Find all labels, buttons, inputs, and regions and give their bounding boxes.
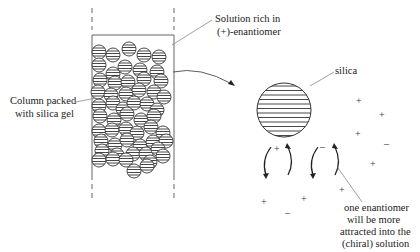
plus-sign: + [274, 143, 280, 154]
note-line-1: one enantiomer [344, 202, 410, 213]
silica-gel-beads [91, 42, 173, 178]
silica-bead [120, 133, 134, 147]
silica-bead [118, 60, 132, 74]
silica-bead [91, 85, 105, 99]
column-leader-line [76, 98, 96, 102]
silica-bead [92, 153, 106, 167]
silica-label: silica [335, 65, 357, 76]
plus-sign: + [356, 95, 362, 106]
silica-bead [92, 58, 106, 72]
silica-bead [132, 83, 146, 97]
solution-label-1: Solution rich in [215, 13, 281, 24]
silica-bead [137, 48, 151, 62]
solution-label-2: (+)-enantiomer [217, 26, 281, 38]
chromatography-diagram: Solution rich in (+)-enantiomer Column p… [0, 0, 420, 252]
note-line-3: attracted into the [340, 226, 411, 237]
silica-bead [140, 159, 154, 173]
note-line-2: will be more [347, 214, 400, 225]
plus-sign: + [261, 196, 267, 207]
silica-bead [152, 50, 166, 64]
solution-leader-line [172, 20, 212, 45]
plus-sign: + [379, 109, 385, 120]
silica-leader-line [310, 72, 334, 86]
plus-sign: + [339, 184, 345, 195]
plus-sign: + [370, 158, 376, 169]
silica-bead [92, 45, 106, 59]
silica-particle-magnified [255, 83, 313, 137]
silica-bead [127, 164, 141, 178]
arrow-head-icon [228, 80, 235, 86]
silica-bead [106, 152, 120, 166]
plus-sign: + [355, 128, 361, 139]
magnify-arrow [173, 71, 232, 85]
silica-bead [157, 90, 171, 104]
silica-bead [120, 107, 134, 121]
silica-bead [105, 123, 119, 137]
silica-bead [93, 109, 107, 123]
column-label-1: Column packed [10, 95, 77, 106]
silica-bead [122, 42, 136, 56]
silica-bead [156, 149, 170, 163]
minus-sign: – [319, 141, 326, 152]
note-line-4: (chiral) solution [342, 238, 410, 250]
minus-sign: – [383, 138, 390, 149]
silica-bead [106, 48, 120, 62]
plus-sign: + [301, 193, 307, 204]
column-label-2: with silica gel [15, 108, 74, 119]
minus-sign: – [284, 207, 291, 218]
